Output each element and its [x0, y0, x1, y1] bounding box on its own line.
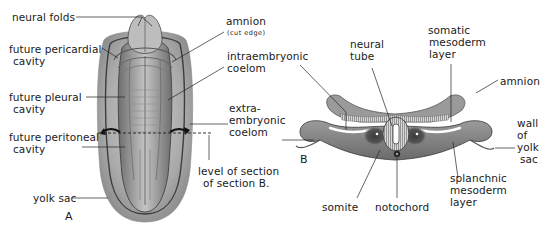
label-line: of section B.	[198, 177, 279, 189]
label-neural-tube: neural tube	[350, 38, 384, 62]
label-line: splanchnic	[450, 172, 507, 184]
label-line: sac	[517, 153, 539, 165]
label-line: neural	[350, 38, 384, 50]
label-line: future peritoneal	[9, 131, 99, 143]
label-line: mesoderm	[450, 184, 507, 196]
label-amnion-note: (cut edge)	[227, 29, 266, 37]
label-line: layer	[428, 48, 486, 60]
cross-section-drawing	[296, 95, 494, 160]
label-amnion: amnion	[500, 75, 540, 87]
label-line: cavity	[9, 103, 82, 115]
label-line: extra-	[229, 102, 286, 114]
label-line: intraembryonic	[227, 50, 309, 62]
label-future-peritoneal-cavity: future peritoneal cavity	[9, 131, 99, 155]
label-line: somatic	[428, 24, 486, 36]
label-line: mesoderm	[428, 36, 486, 48]
embryo-drawing	[97, 15, 212, 222]
label-somatic-mesoderm-layer: somatic mesoderm layer	[428, 24, 486, 60]
label-wall-of-yolk-sac: wall of yolk sac	[517, 117, 539, 165]
label-line: of	[517, 129, 539, 141]
label-line: future pericardial	[9, 43, 101, 55]
label-line: coelom	[227, 62, 309, 74]
panel-label-a: A	[65, 211, 73, 223]
label-future-pleural-cavity: future pleural cavity	[9, 91, 82, 115]
label-notochord: notochord	[375, 201, 429, 213]
label-line: tube	[350, 50, 384, 62]
label-intraembryonic-coelom: intraembryonic coelom	[227, 50, 309, 74]
label-somite: somite	[322, 201, 358, 213]
label-amnion-cut-edge: amnion	[226, 15, 266, 27]
label-yolk-sac: yolk sac	[33, 192, 76, 204]
label-extraembryonic-coelom: extra- embryonic coelom	[229, 102, 286, 138]
label-line: layer	[450, 196, 507, 208]
panel-label-b: B	[300, 154, 308, 166]
label-line: wall	[517, 117, 539, 129]
label-future-pericardial-cavity: future pericardial cavity	[9, 43, 101, 67]
label-line: embryonic	[229, 114, 286, 126]
label-level-of-section: level of section of section B.	[198, 165, 279, 189]
label-splanchnic-mesoderm-layer: splanchnic mesoderm layer	[450, 172, 507, 208]
label-line: future pleural	[9, 91, 82, 103]
label-line: cavity	[9, 55, 101, 67]
label-line: cavity	[9, 143, 99, 155]
embryo-diagram-figure: neural folds future pericardial cavity f…	[0, 0, 545, 231]
label-line: level of section	[198, 165, 279, 177]
label-line: yolk	[517, 141, 539, 153]
label-line: coelom	[229, 126, 286, 138]
label-neural-folds: neural folds	[12, 11, 75, 23]
